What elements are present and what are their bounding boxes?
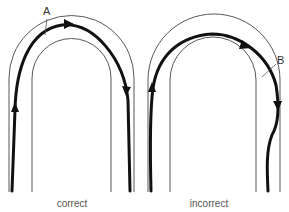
incorrect-diagram: B incorrect bbox=[148, 14, 284, 209]
arrow-down-icon bbox=[122, 86, 131, 96]
arrow-down-icon bbox=[273, 101, 282, 111]
cornering-diagram: A correct B incorrect bbox=[0, 0, 289, 212]
inner-lane-edge bbox=[32, 39, 111, 193]
marker-a-label: A bbox=[43, 5, 51, 17]
caption-incorrect: incorrect bbox=[190, 198, 229, 209]
outer-lane-edge bbox=[148, 14, 280, 192]
arrow-up-icon bbox=[11, 102, 19, 112]
inner-lane-edge bbox=[170, 37, 256, 192]
correct-diagram: A correct bbox=[9, 5, 134, 209]
marker-b-label: B bbox=[277, 54, 284, 66]
arrow-right-icon bbox=[64, 19, 74, 29]
caption-correct: correct bbox=[57, 198, 88, 209]
correct-racing-line bbox=[12, 25, 130, 191]
outer-lane-edge bbox=[9, 16, 134, 193]
